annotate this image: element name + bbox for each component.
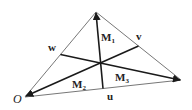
side-label-v: v xyxy=(136,30,142,42)
side-label-w: w xyxy=(48,41,56,53)
region-label-m2: M2 xyxy=(72,78,86,92)
median-to-top xyxy=(96,13,103,89)
triangle-medians-diagram: O w v u M1 M2 M3 xyxy=(0,0,192,110)
region-label-m1: M1 xyxy=(101,31,115,45)
side-label-u: u xyxy=(107,90,113,102)
medians xyxy=(26,13,180,96)
region-label-m3: M3 xyxy=(115,71,129,85)
origin-label: O xyxy=(13,92,22,106)
